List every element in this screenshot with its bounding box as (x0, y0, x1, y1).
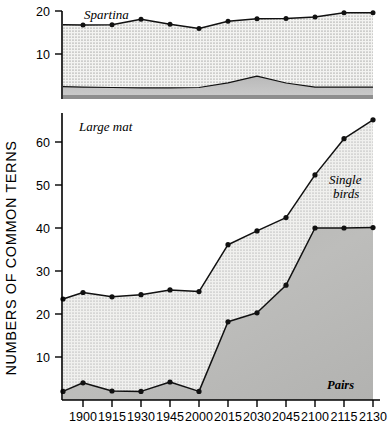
upper-panel: 20 10 Spartina (36, 5, 375, 100)
xtick-label-2015: 2015 (214, 410, 242, 424)
xtick-label-2000: 2000 (185, 410, 213, 424)
xtick-label-2030: 2030 (243, 410, 271, 424)
lower-ytick-label-60: 60 (36, 136, 50, 150)
xtick-label-1915: 1915 (98, 410, 126, 424)
large-mat-annotation: Large mat (78, 119, 133, 134)
xtick-label-2100: 2100 (301, 410, 329, 424)
xtick-label-2130: 2130 (359, 410, 387, 424)
x-ticks (83, 400, 373, 407)
lower-y-ticks (55, 142, 62, 357)
spartina-annotation: Spartina (84, 7, 129, 22)
single-birds-annotation-line2: birds (333, 186, 359, 201)
lower-ytick-label-50: 50 (36, 179, 50, 193)
single-birds-annotation-line1: Single (329, 172, 362, 187)
xtick-label-2045: 2045 (272, 410, 300, 424)
lower-ytick-label-40: 40 (36, 222, 50, 236)
xtick-label-1900: 1900 (69, 410, 97, 424)
lower-panel: 60 50 40 30 20 10 1900 1915 19 (36, 113, 387, 424)
upper-ytick-label-10: 10 (36, 48, 50, 62)
lower-ytick-label-30: 30 (36, 265, 50, 279)
xtick-label-1930: 1930 (127, 410, 155, 424)
lower-ytick-label-20: 20 (36, 308, 50, 322)
figure-container: NUMBERS OF COMMON TERNS (0, 0, 391, 428)
xtick-label-2115: 2115 (331, 410, 358, 424)
upper-ytick-label-20: 20 (36, 5, 50, 19)
common-terns-chart: NUMBERS OF COMMON TERNS (0, 0, 391, 428)
upper-base-strip (63, 95, 373, 99)
xtick-label-1945: 1945 (156, 410, 184, 424)
y-axis-title: NUMBERS OF COMMON TERNS (3, 140, 19, 375)
pairs-annotation: Pairs (327, 378, 354, 392)
lower-ytick-label-10: 10 (36, 351, 50, 365)
